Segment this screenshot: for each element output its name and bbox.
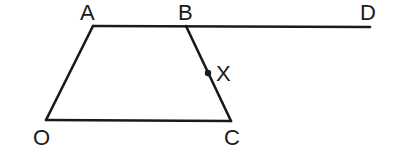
line-segment-OA [46,26,93,120]
point-X-dot [205,70,211,76]
label-C: C [224,125,240,150]
label-O: O [33,125,50,150]
line-segment-AD [93,26,370,27]
line-segment-OC [46,120,231,121]
geometry-diagram: A B D X O C [0,0,398,160]
label-X: X [216,61,231,86]
label-A: A [80,0,95,25]
label-B: B [178,0,193,25]
label-D: D [360,0,376,25]
